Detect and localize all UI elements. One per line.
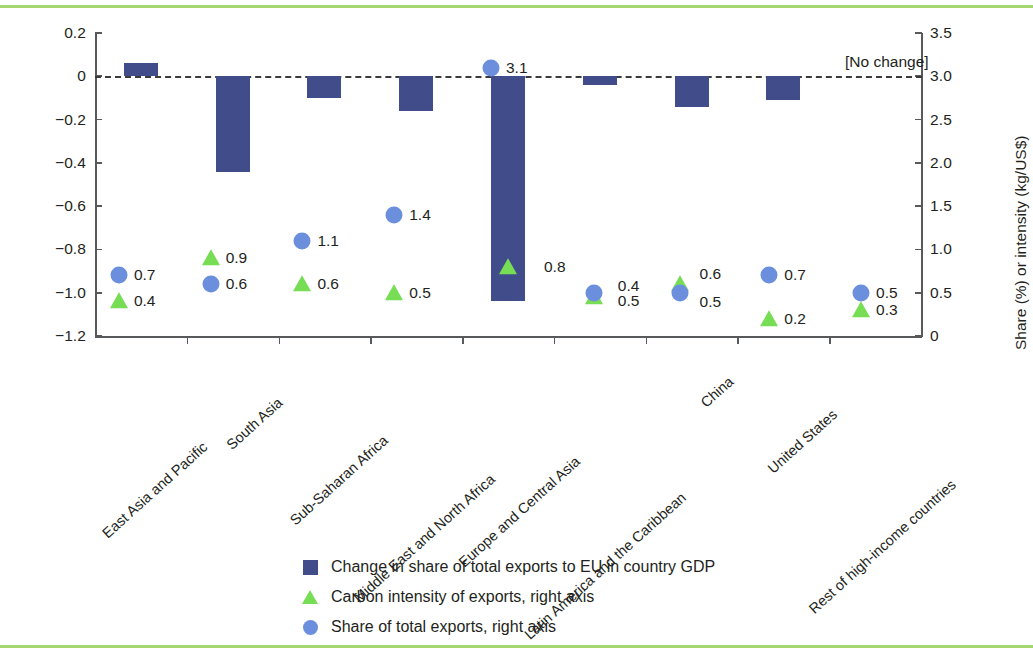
legend-item-carbon-intensity: Carbon intensity of exports, right axis <box>300 582 715 612</box>
right-tick <box>915 162 922 164</box>
export-share-value-label: 0.5 <box>700 293 722 311</box>
left-tick <box>95 32 102 34</box>
left-tick-label: 0 <box>26 67 86 85</box>
right-tick-label: 0 <box>930 327 990 345</box>
x-tick <box>187 336 189 344</box>
carbon-intensity-marker <box>293 275 311 291</box>
right-tick-label: 2.0 <box>930 154 990 172</box>
left-tick <box>95 335 102 337</box>
export-share-marker <box>386 206 403 223</box>
bar <box>124 63 158 76</box>
right-tick-label: 2.5 <box>930 111 990 129</box>
carbon-intensity-marker <box>202 249 220 265</box>
bottom-rule <box>0 645 1033 648</box>
left-tick <box>95 292 102 294</box>
legend-item-export-share: Share of total exports, right axis <box>300 612 715 642</box>
x-axis-category-label: Rest of high-income countries <box>806 476 959 616</box>
bar <box>399 76 433 111</box>
right-tick <box>915 205 922 207</box>
carbon-intensity-marker <box>110 293 128 309</box>
x-tick <box>279 336 281 344</box>
right-tick <box>915 292 922 294</box>
bar <box>307 76 341 98</box>
x-axis-category-label: East Asia and Pacific <box>99 439 210 542</box>
export-share-marker <box>483 59 500 76</box>
left-tick-label: −0.4 <box>26 154 86 172</box>
export-share-value-label: 0.7 <box>134 266 156 284</box>
carbon-intensity-value-label: 0.3 <box>876 301 898 319</box>
bottom-axis-spine <box>95 336 922 338</box>
x-tick <box>462 336 464 344</box>
top-rule <box>0 5 1033 8</box>
x-tick <box>829 336 831 344</box>
x-tick <box>370 336 372 344</box>
export-share-value-label: 1.4 <box>409 206 431 224</box>
export-share-value-label: 0.7 <box>784 266 806 284</box>
carbon-intensity-value-label: 0.8 <box>544 258 566 276</box>
bar <box>583 76 617 85</box>
left-tick-label: −0.6 <box>26 197 86 215</box>
carbon-intensity-value-label: 0.9 <box>226 249 248 267</box>
left-tick <box>95 205 102 207</box>
export-share-value-label: 0.5 <box>618 292 640 310</box>
carbon-intensity-marker <box>385 284 403 300</box>
export-share-marker <box>853 284 870 301</box>
legend-square-icon <box>300 560 320 575</box>
x-axis-category-label: Sub-Saharan Africa <box>287 432 391 528</box>
x-axis-category-label: China <box>697 373 736 410</box>
left-tick-label: −1.2 <box>26 327 86 345</box>
export-share-marker <box>585 284 602 301</box>
carbon-intensity-value-label: 0.2 <box>784 310 806 328</box>
left-tick-label: −0.2 <box>26 111 86 129</box>
export-share-value-label: 0.5 <box>876 284 898 302</box>
right-tick <box>915 32 922 34</box>
legend-label: Carbon intensity of exports, right axis <box>331 588 594 606</box>
legend-label: Share of total exports, right axis <box>331 618 556 636</box>
carbon-intensity-value-label: 0.6 <box>317 275 339 293</box>
no-change-annotation: [No change] <box>845 53 929 71</box>
bar <box>216 76 250 171</box>
export-share-marker <box>110 267 127 284</box>
chart-legend: Change in share of total exports to EU i… <box>300 552 715 642</box>
right-tick-label: 1.0 <box>930 240 990 258</box>
export-share-value-label: 1.1 <box>317 232 339 250</box>
right-tick <box>915 249 922 251</box>
right-tick <box>915 119 922 121</box>
right-tick-label: 1.5 <box>930 197 990 215</box>
left-tick-label: 0.2 <box>26 24 86 42</box>
left-tick <box>95 249 102 251</box>
left-tick-label: −1.0 <box>26 284 86 302</box>
carbon-intensity-marker <box>760 310 778 326</box>
bar <box>675 76 709 106</box>
export-share-marker <box>761 267 778 284</box>
x-tick <box>646 336 648 344</box>
right-tick-label: 0.5 <box>930 284 990 302</box>
x-axis-category-label: South Asia <box>223 394 285 452</box>
carbon-intensity-marker <box>852 301 870 317</box>
export-share-marker <box>294 232 311 249</box>
carbon-intensity-value-label: 0.6 <box>700 265 722 283</box>
left-tick <box>95 119 102 121</box>
legend-label: Change in share of total exports to EU i… <box>331 558 715 576</box>
x-tick <box>554 336 556 344</box>
right-tick-label: 3.0 <box>930 67 990 85</box>
right-axis-title: Share (%) or intensity (kg/US$) <box>1012 136 1030 351</box>
chart-figure: 0.20−0.2−0.4−0.6−0.8−1.0−1.2 3.53.02.52.… <box>0 0 1033 653</box>
x-axis-category-label: United States <box>765 406 840 476</box>
carbon-intensity-value-label: 0.4 <box>134 292 156 310</box>
export-share-value-label: 0.6 <box>226 275 248 293</box>
left-tick-label: −0.8 <box>26 240 86 258</box>
right-tick-label: 3.5 <box>930 24 990 42</box>
legend-item-bars: Change in share of total exports to EU i… <box>300 552 715 582</box>
right-tick <box>915 335 922 337</box>
x-tick <box>737 336 739 344</box>
legend-circle-icon <box>300 620 320 635</box>
carbon-intensity-value-label: 0.5 <box>409 284 431 302</box>
export-share-marker <box>671 284 688 301</box>
left-tick <box>95 162 102 164</box>
export-share-value-label: 3.1 <box>506 59 528 77</box>
legend-triangle-icon <box>300 590 320 604</box>
export-share-marker <box>202 276 219 293</box>
bar <box>766 76 800 100</box>
carbon-intensity-marker <box>499 258 517 274</box>
